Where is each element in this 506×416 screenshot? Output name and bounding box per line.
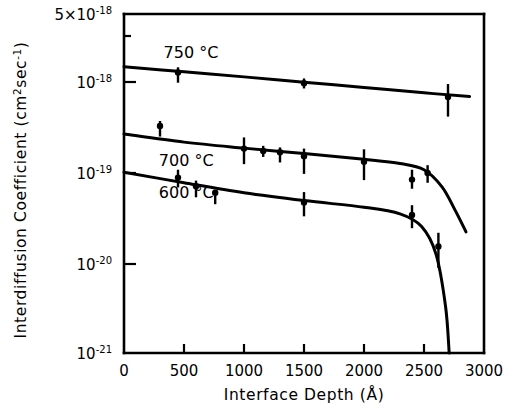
x-tick-label-3000: 3000 xyxy=(465,362,503,380)
data-point xyxy=(260,148,266,154)
y-axis-ticks xyxy=(124,36,136,264)
data-point xyxy=(424,170,430,176)
series-750-c xyxy=(124,67,470,117)
x-tick-label-1000: 1000 xyxy=(225,362,263,380)
data-point xyxy=(175,69,181,75)
data-point xyxy=(435,243,441,249)
y-tick-labels: 5×10-18 10-18 10-19 10-20 10-21 xyxy=(54,5,112,363)
x-tick-labels: 0 500 1000 1500 2000 2500 3000 xyxy=(119,362,503,380)
y-tick-label-1e-21: 10-21 xyxy=(77,344,112,363)
series-label-750-c: 750 °C xyxy=(164,43,219,62)
x-tick-label-2000: 2000 xyxy=(345,362,383,380)
data-point xyxy=(361,159,367,165)
series-layer xyxy=(124,67,470,353)
data-point xyxy=(301,80,307,86)
x-tick-label-500: 500 xyxy=(170,362,199,380)
data-point xyxy=(409,176,415,182)
x-tick-label-0: 0 xyxy=(119,362,129,380)
data-point xyxy=(157,123,163,129)
x-axis-title: Interface Depth (Å) xyxy=(224,385,385,404)
data-point xyxy=(301,153,307,159)
data-point xyxy=(301,199,307,205)
x-tick-label-2500: 2500 xyxy=(405,362,443,380)
chart-svg: 5×10-18 10-18 10-19 10-20 10-21 0 500 10… xyxy=(0,0,506,416)
series-labels: 750 °C700 °C600 °C xyxy=(159,43,219,202)
y-tick-label-1e-18: 10-18 xyxy=(77,73,112,92)
chart-figure: 5×10-18 10-18 10-19 10-20 10-21 0 500 10… xyxy=(0,0,506,416)
data-point xyxy=(445,94,451,100)
x-axis-ticks xyxy=(184,344,424,353)
data-point xyxy=(277,149,283,155)
y-tick-label-1e-19: 10-19 xyxy=(77,164,112,183)
y-tick-label-5e-18: 5×10-18 xyxy=(54,5,112,24)
series-label-600-c: 600 °C xyxy=(159,183,214,202)
data-point xyxy=(241,145,247,151)
series-label-700-c: 700 °C xyxy=(159,151,214,170)
y-tick-label-1e-20: 10-20 xyxy=(77,255,112,274)
y-axis-title: Interdiffusion Coefficient (cm2sec-1) xyxy=(11,41,30,338)
data-point xyxy=(175,174,181,180)
x-tick-label-1500: 1500 xyxy=(285,362,323,380)
data-point xyxy=(409,212,415,218)
